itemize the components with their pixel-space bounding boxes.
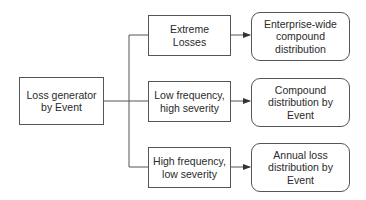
category-1-line-2: Losses — [173, 36, 206, 49]
output-2-line-3: Event — [287, 109, 314, 122]
output-3-line-2: distribution by — [268, 161, 333, 174]
source-label-line-1: Loss generator — [26, 89, 96, 102]
category-1-line-1: Extreme — [170, 23, 209, 36]
output-box-compound-distribution-by-event: Compound distribution by Event — [251, 78, 350, 127]
output-3-line-3: Event — [287, 174, 314, 187]
source-label-line-2: by Event — [41, 101, 82, 114]
output-1-line-1: Enterprise-wide — [264, 18, 337, 31]
category-box-low-frequency-high-severity: Low frequency, high severity — [148, 81, 231, 122]
category-2-line-2: high severity — [160, 102, 219, 115]
output-2-line-2: distribution by — [268, 96, 333, 109]
source-box-loss-generator: Loss generator by Event — [19, 77, 104, 125]
output-2-line-1: Compound — [275, 84, 326, 97]
category-box-high-frequency-low-severity: High frequency, low severity — [148, 147, 231, 188]
category-2-line-1: Low frequency, — [154, 89, 224, 102]
category-box-extreme-losses: Extreme Losses — [148, 15, 231, 56]
output-box-enterprise-wide-compound-distribution: Enterprise-wide compound distribution — [251, 12, 350, 61]
output-1-line-3: distribution — [275, 43, 326, 56]
output-1-line-2: compound — [276, 30, 325, 43]
category-3-line-1: High frequency, — [153, 155, 226, 168]
category-3-line-2: low severity — [162, 168, 217, 181]
output-box-annual-loss-distribution-by-event: Annual loss distribution by Event — [251, 143, 350, 192]
output-3-line-1: Annual loss — [273, 149, 327, 162]
